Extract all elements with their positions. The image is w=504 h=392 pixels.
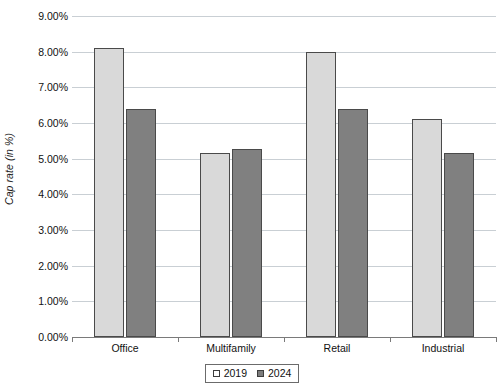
bar-retail-2024[interactable]	[338, 109, 368, 337]
legend-item-2024[interactable]: 2024	[257, 367, 291, 379]
legend-item-2019[interactable]: 2019	[213, 367, 247, 379]
cap-rate-bar-chart: Cap rate (in %) 0.00%1.00%2.00%3.00%4.00…	[0, 0, 504, 392]
x-axis-tick-mark	[178, 337, 179, 342]
y-axis-tick-label: 0.00%	[12, 331, 68, 343]
x-axis-tick-mark	[390, 337, 391, 342]
bar-office-2019[interactable]	[94, 48, 124, 337]
bars-layer	[72, 16, 496, 337]
legend: 2019 2024	[0, 364, 504, 383]
y-axis-tick-labels: 0.00%1.00%2.00%3.00%4.00%5.00%6.00%7.00%…	[8, 16, 68, 337]
bar-industrial-2024[interactable]	[444, 153, 474, 337]
x-axis-label-office: Office	[111, 342, 138, 354]
x-axis: OfficeMultifamilyRetailIndustrial	[72, 337, 496, 359]
y-axis-tick-label: 2.00%	[12, 260, 68, 272]
legend-box: 2019 2024	[205, 364, 300, 383]
legend-label-2024: 2024	[268, 367, 291, 379]
bar-industrial-2019[interactable]	[412, 119, 442, 337]
legend-label-2019: 2019	[224, 367, 247, 379]
y-axis-tick-label: 9.00%	[12, 10, 68, 22]
bar-multifamily-2024[interactable]	[232, 149, 262, 337]
y-axis-tick-label: 1.00%	[12, 295, 68, 307]
y-axis-tick-label: 8.00%	[12, 46, 68, 58]
x-axis-label-industrial: Industrial	[422, 342, 465, 354]
x-axis-tick-mark	[72, 337, 73, 342]
x-axis-label-retail: Retail	[324, 342, 351, 354]
y-axis-tick-label: 6.00%	[12, 117, 68, 129]
bar-office-2024[interactable]	[126, 109, 156, 337]
y-axis-tick-label: 7.00%	[12, 81, 68, 93]
y-axis-tick-label: 4.00%	[12, 188, 68, 200]
y-axis-tick-label: 5.00%	[12, 153, 68, 165]
y-axis-tick-label: 3.00%	[12, 224, 68, 236]
legend-swatch-2024-icon	[257, 370, 264, 377]
bar-multifamily-2019[interactable]	[200, 153, 230, 337]
plot-area	[72, 16, 496, 337]
legend-swatch-2019-icon	[213, 370, 220, 377]
x-axis-tick-mark	[496, 337, 497, 342]
bar-retail-2019[interactable]	[306, 52, 336, 337]
x-axis-label-multifamily: Multifamily	[206, 342, 256, 354]
x-axis-tick-mark	[284, 337, 285, 342]
